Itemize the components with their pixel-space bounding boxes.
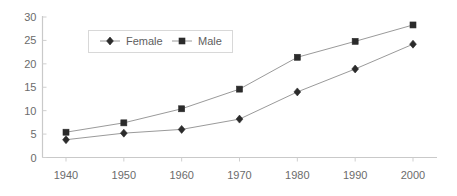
chart-plot-area: 051015202530 194019501960197019801990200… bbox=[0, 0, 457, 196]
y-tick-label: 20 bbox=[24, 58, 36, 70]
data-point bbox=[352, 38, 358, 44]
data-point bbox=[178, 125, 185, 133]
data-point bbox=[63, 129, 69, 135]
y-tick-label: 15 bbox=[24, 81, 36, 93]
x-tick-label: 1990 bbox=[343, 169, 367, 181]
legend-label: Male bbox=[198, 35, 222, 47]
data-point bbox=[294, 54, 300, 60]
y-tick-label: 5 bbox=[30, 128, 36, 140]
data-point bbox=[410, 22, 416, 28]
x-tick-label: 1980 bbox=[285, 169, 309, 181]
x-tick-label: 1950 bbox=[112, 169, 136, 181]
chart-legend: FemaleMale bbox=[89, 31, 233, 53]
y-tick-label: 0 bbox=[30, 152, 36, 164]
data-point bbox=[410, 40, 417, 48]
data-point bbox=[236, 115, 243, 123]
y-tick-label: 25 bbox=[24, 34, 36, 46]
data-point bbox=[294, 88, 301, 96]
x-tick-label: 1940 bbox=[54, 169, 78, 181]
x-tick-label: 2000 bbox=[401, 169, 425, 181]
data-point bbox=[237, 86, 243, 92]
legend-label: Female bbox=[126, 35, 163, 47]
line-chart: 051015202530 194019501960197019801990200… bbox=[0, 0, 457, 196]
data-point bbox=[120, 129, 127, 137]
data-point bbox=[179, 106, 185, 112]
y-axis-ticks: 051015202530 bbox=[24, 11, 46, 164]
data-point bbox=[63, 136, 70, 144]
data-point bbox=[121, 120, 127, 126]
legend-marker-square bbox=[179, 38, 185, 44]
y-tick-label: 30 bbox=[24, 11, 36, 23]
y-tick-label: 10 bbox=[24, 105, 36, 117]
x-tick-label: 1960 bbox=[169, 169, 193, 181]
x-axis-ticks: 1940195019601970198019902000 bbox=[54, 158, 425, 181]
data-point bbox=[352, 65, 359, 73]
x-tick-label: 1970 bbox=[227, 169, 251, 181]
